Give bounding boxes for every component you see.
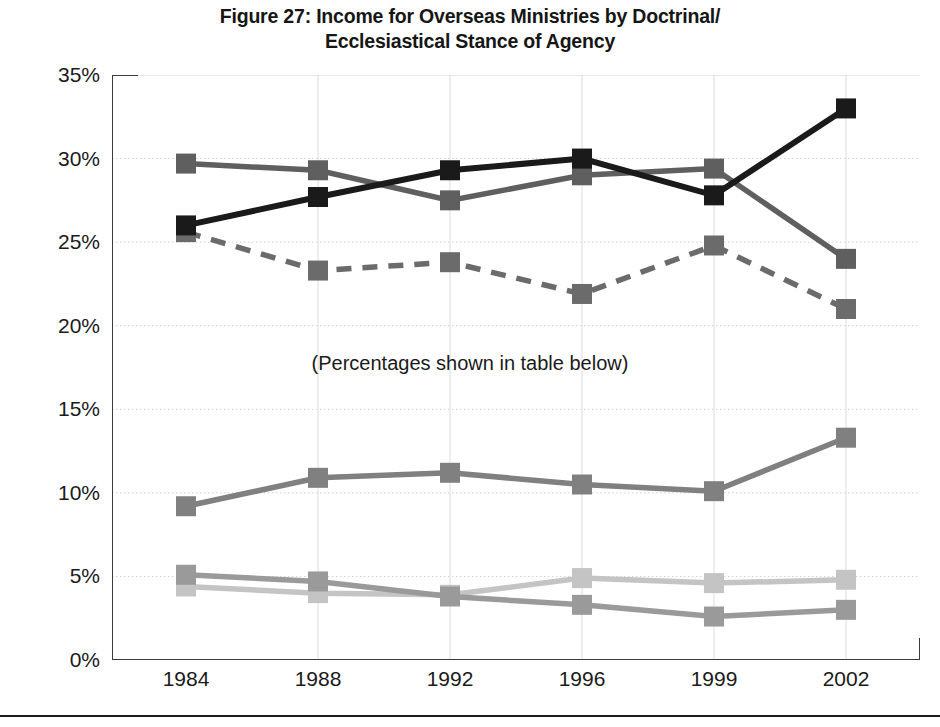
- series-marker: [572, 595, 592, 615]
- series-marker: [704, 573, 724, 593]
- series-group: [176, 428, 856, 517]
- series-marker: [572, 149, 592, 169]
- series-marker: [836, 600, 856, 620]
- series-marker: [836, 249, 856, 269]
- series-marker: [440, 252, 460, 272]
- figure-container: Figure 27: Income for Overseas Ministrie…: [0, 0, 940, 727]
- y-axis-tick-label: 20%: [8, 315, 100, 336]
- series-marker: [704, 481, 724, 501]
- series-marker: [704, 159, 724, 179]
- y-axis-tick-label: 5%: [8, 565, 100, 586]
- series-group: [176, 222, 856, 319]
- series-marker: [704, 235, 724, 255]
- series-marker: [176, 496, 196, 516]
- series-marker: [440, 586, 460, 606]
- series-marker: [440, 160, 460, 180]
- series-marker: [836, 570, 856, 590]
- series-marker: [176, 215, 196, 235]
- x-axis-tick-label: 1999: [654, 668, 774, 689]
- series-marker: [440, 190, 460, 210]
- series-group: [176, 565, 856, 627]
- series-marker: [704, 185, 724, 205]
- series-line: [186, 164, 846, 259]
- chart-annotation: (Percentages shown in table below): [0, 352, 940, 375]
- series-line: [186, 438, 846, 507]
- series-marker: [572, 475, 592, 495]
- series-marker: [308, 160, 328, 180]
- y-axis-tick-label: 10%: [8, 482, 100, 503]
- x-axis-tick-label: 2002: [786, 668, 906, 689]
- x-axis-tick-label: 1992: [390, 668, 510, 689]
- series-marker: [836, 98, 856, 118]
- series-marker: [836, 428, 856, 448]
- series-marker: [176, 565, 196, 585]
- series-marker: [308, 261, 328, 281]
- series-marker: [572, 568, 592, 588]
- series-marker: [572, 284, 592, 304]
- series-marker: [836, 299, 856, 319]
- x-axis-tick-label: 1984: [126, 668, 246, 689]
- series-marker: [308, 571, 328, 591]
- series-marker: [308, 468, 328, 488]
- series-marker: [176, 154, 196, 174]
- y-axis-tick-label: 30%: [8, 148, 100, 169]
- series-marker: [440, 463, 460, 483]
- x-axis-tick-label: 1996: [522, 668, 642, 689]
- x-axis-tick-label: 1988: [258, 668, 378, 689]
- series-line: [186, 232, 846, 309]
- figure-title: Figure 27: Income for Overseas Ministrie…: [0, 4, 940, 54]
- y-axis-tick-label: 15%: [8, 398, 100, 419]
- figure-title-line-1: Figure 27: Income for Overseas Ministrie…: [0, 4, 940, 29]
- series-marker: [704, 607, 724, 627]
- y-axis-tick-label: 0%: [8, 649, 100, 670]
- series-marker: [308, 187, 328, 207]
- y-axis-tick-label: 35%: [8, 64, 100, 85]
- y-axis-tick-label: 25%: [8, 231, 100, 252]
- footer-rule: [0, 715, 940, 717]
- figure-title-line-2: Ecclesiastical Stance of Agency: [0, 29, 940, 54]
